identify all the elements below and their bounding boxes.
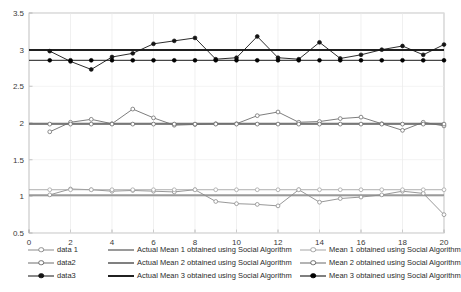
svg-text:2: 2: [20, 119, 25, 128]
chart-legend: data 1 data2 data3 Actual Mean 1 obtaine…: [0, 243, 455, 292]
legend-label: data2: [57, 258, 76, 267]
legend-label: Mean 1 obtained using Social Algorithm: [329, 245, 461, 254]
legend-item[interactable]: Actual Mean 2 obtained using Social Algo…: [108, 256, 300, 269]
legend-item[interactable]: Actual Mean 3 obtained using Social Algo…: [108, 269, 300, 282]
legend-swatch-mean1: [300, 245, 326, 255]
legend-item[interactable]: data2: [28, 256, 108, 269]
legend-label: Actual Mean 1 obtained using Social Algo…: [137, 245, 292, 254]
legend-swatch-data1: [28, 245, 54, 255]
legend-swatch-actual-mean1: [108, 245, 134, 255]
legend-item[interactable]: Mean 1 obtained using Social Algorithm: [300, 243, 455, 256]
tick-labels: 024681012141618200.511.522.533.5: [13, 9, 449, 247]
legend-label: Actual Mean 3 obtained using Social Algo…: [137, 271, 292, 280]
svg-text:3.5: 3.5: [13, 9, 25, 18]
legend-swatch-actual-mean2: [108, 258, 134, 268]
legend-item[interactable]: data3: [28, 269, 108, 282]
svg-text:3: 3: [20, 46, 25, 55]
legend-label: data3: [57, 271, 76, 280]
legend-swatch-actual-mean3: [108, 271, 134, 281]
legend-item[interactable]: Mean 2 obtained using Social Algorithm: [300, 256, 455, 269]
legend-swatch-mean3: [300, 271, 326, 281]
series-layer: [29, 35, 446, 217]
legend-swatch-data2: [28, 258, 54, 268]
legend-swatch-data3: [28, 271, 54, 281]
svg-text:2.5: 2.5: [13, 82, 25, 91]
legend-label: data 1: [57, 245, 78, 254]
svg-text:1.5: 1.5: [13, 156, 25, 165]
legend-label: Mean 2 obtained using Social Algorithm: [329, 258, 461, 267]
legend-item[interactable]: Actual Mean 1 obtained using Social Algo…: [108, 243, 300, 256]
svg-text:0.5: 0.5: [13, 229, 25, 238]
legend-label: Mean 3 obtained using Social Algorithm: [329, 271, 461, 280]
legend-column-mean: Mean 1 obtained using Social Algorithm M…: [300, 243, 455, 282]
legend-column-data: data 1 data2 data3: [28, 243, 108, 282]
legend-label: Actual Mean 2 obtained using Social Algo…: [137, 258, 292, 267]
legend-swatch-mean2: [300, 258, 326, 268]
legend-column-actual-mean: Actual Mean 1 obtained using Social Algo…: [108, 243, 300, 282]
legend-item[interactable]: data 1: [28, 243, 108, 256]
legend-item[interactable]: Mean 3 obtained using Social Algorithm: [300, 269, 455, 282]
svg-text:1: 1: [20, 192, 25, 201]
